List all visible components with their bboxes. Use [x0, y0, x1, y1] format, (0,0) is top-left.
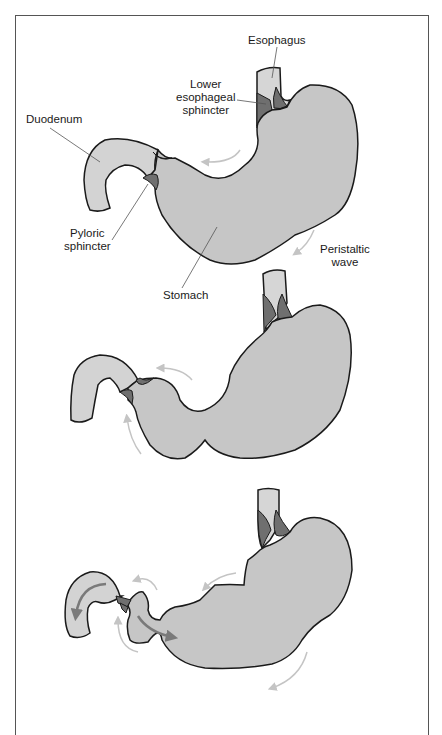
label-duodenum: Duodenum [26, 113, 82, 126]
stomach-2 [128, 305, 351, 459]
peristalsis-arrow-2a [160, 368, 192, 380]
panel-3 [65, 489, 352, 689]
label-lower-esophageal-sphincter: Lower esophageal sphincter [176, 78, 235, 117]
label-peristaltic-wave: Peristaltic wave [320, 243, 370, 269]
duodenum-3 [65, 572, 122, 638]
panel-2 [71, 270, 351, 459]
leader-pyloric [112, 184, 148, 240]
peristalsis-arrow-1a [205, 150, 240, 162]
label-esophagus: Esophagus [248, 34, 306, 47]
label-stomach: Stomach [163, 289, 208, 302]
stomach-3 [127, 518, 352, 669]
peristalsis-arrow-3a [136, 579, 157, 590]
leader-duodenum [50, 128, 100, 162]
label-pyloric-sphincter: Pyloric sphincter [64, 227, 111, 253]
